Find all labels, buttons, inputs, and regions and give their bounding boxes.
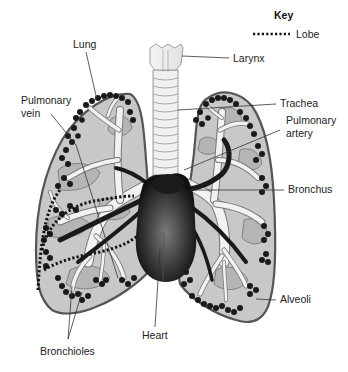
label-pulmonary-vein-2: vein — [21, 107, 40, 119]
label-heart: Heart — [142, 329, 168, 341]
trachea — [153, 70, 178, 180]
larynx — [150, 44, 183, 72]
label-pulmonary-artery-2: artery — [286, 127, 314, 139]
heart — [136, 173, 196, 282]
label-pulmonary-artery-1: Pulmonary — [286, 114, 337, 126]
label-lung: Lung — [73, 38, 97, 50]
label-pulmonary-vein-1: Pulmonary — [21, 94, 72, 106]
key-title: Key — [274, 9, 293, 21]
label-larynx: Larynx — [233, 52, 265, 64]
key-legend: Key Lobe — [253, 9, 320, 40]
lung-anatomy-diagram: Key Lobe — [0, 0, 348, 372]
label-alveoli: Alveoli — [280, 293, 311, 305]
label-bronchioles: Bronchioles — [40, 345, 95, 357]
label-trachea: Trachea — [280, 97, 318, 109]
label-bronchus: Bronchus — [288, 183, 332, 195]
key-lobe-label: Lobe — [296, 28, 320, 40]
